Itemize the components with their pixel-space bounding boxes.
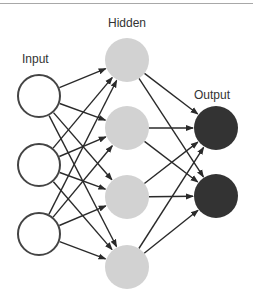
connection-edges	[49, 69, 204, 259]
edge-h1-o1	[145, 73, 198, 114]
hidden-node-h4	[105, 245, 149, 289]
input-node-i2	[18, 144, 60, 186]
edge-i3-h4	[60, 242, 106, 259]
output-node-o2	[194, 174, 238, 218]
neural-network-diagram: Input Hidden Output	[0, 0, 253, 306]
output-node-o1	[194, 106, 238, 150]
hidden-node-h3	[105, 175, 149, 219]
network-nodes	[18, 38, 238, 289]
edge-h4-o2	[144, 210, 198, 253]
layer-label-input: Input	[22, 52, 49, 66]
hidden-node-h1	[105, 38, 149, 82]
edge-h3-o2	[149, 196, 193, 197]
edge-i3-h3	[59, 206, 106, 226]
input-node-i1	[18, 75, 60, 117]
hidden-node-h2	[105, 106, 149, 150]
edge-i1-h1	[59, 69, 105, 88]
input-node-i3	[18, 213, 60, 255]
layer-label-hidden: Hidden	[108, 16, 146, 30]
layer-label-output: Output	[194, 88, 231, 102]
